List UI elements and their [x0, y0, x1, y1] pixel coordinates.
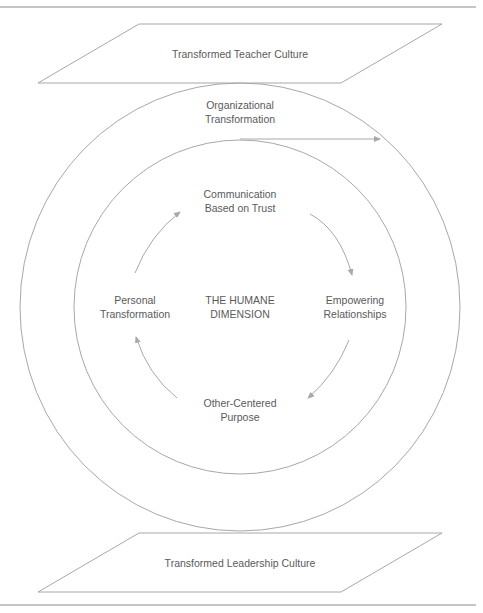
top-plane-label: Transformed Teacher Culture — [120, 47, 360, 61]
outer-ring-label: Organizational Transformation — [180, 98, 300, 126]
cycle-node-empowering: Empowering Relationships — [300, 293, 410, 321]
arrow-empowering-to-other — [308, 340, 349, 398]
arrow-communication-to-empowering — [310, 214, 352, 275]
center-label: THE HUMANE DIMENSION — [180, 293, 300, 321]
arrow-personal-to-communication — [135, 212, 180, 273]
cycle-node-other-centered: Other-Centered Purpose — [180, 396, 300, 424]
cycle-node-communication: Communication Based on Trust — [180, 187, 300, 215]
arrow-other-to-personal — [136, 337, 177, 398]
cycle-node-personal: Personal Transformation — [80, 293, 190, 321]
bottom-plane-label: Transformed Leadership Culture — [120, 556, 360, 570]
